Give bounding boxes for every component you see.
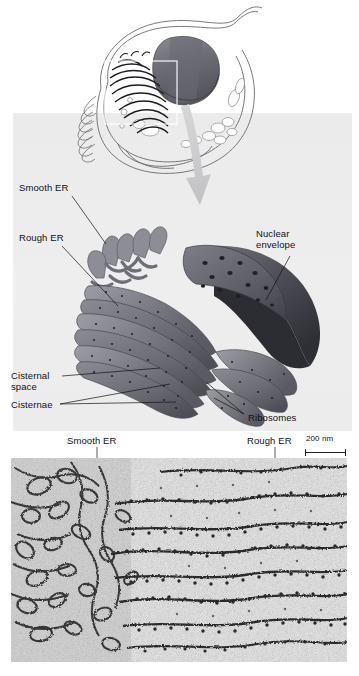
label-cisternal-space: Cisternal space [11, 370, 65, 392]
tem-micrograph-er [11, 458, 347, 662]
label-smooth-er-micrograph: Smooth ER [67, 435, 116, 446]
label-nuclear-envelope-line2: envelope [256, 239, 295, 250]
label-smooth-er-top: Smooth ER [19, 182, 68, 193]
label-nuclear-envelope: Nuclear envelope [256, 228, 316, 250]
scale-bar [305, 449, 346, 456]
label-cisternal-space-line2: space [11, 381, 37, 392]
label-scale-bar: 200 nm [306, 433, 333, 444]
label-cisternal-space-line1: Cisternal [11, 370, 49, 381]
label-nuclear-envelope-line1: Nuclear [256, 228, 289, 239]
er-figure: Smooth ER Rough ER Nuclear envelope Cist… [0, 0, 359, 676]
label-cisternae: Cisternae [11, 399, 53, 410]
label-ribosomes: Ribosomes [248, 412, 296, 423]
label-rough-er-top: Rough ER [19, 232, 64, 243]
label-rough-er-micrograph: Rough ER [247, 435, 292, 446]
